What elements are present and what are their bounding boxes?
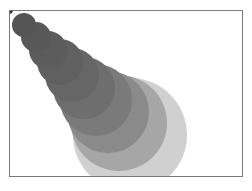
circle-shape <box>5 6 13 14</box>
circles-canvas <box>0 0 252 191</box>
circle-group <box>5 6 187 191</box>
circle-shape <box>12 13 36 37</box>
